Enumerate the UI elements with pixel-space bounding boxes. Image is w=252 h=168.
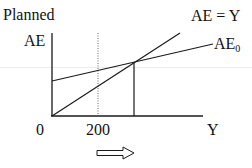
ae-equals-y-line	[52, 33, 180, 116]
x-axis-label-y: Y	[207, 122, 219, 138]
origin-label: 0	[36, 122, 44, 138]
ae0-line	[52, 44, 213, 81]
hollow-right-arrow-icon	[97, 147, 134, 159]
ae-diagram: Planned AE AE = Y AE0 0 200 Y	[0, 0, 252, 168]
x-tick-200: 200	[86, 122, 110, 138]
ae-equals-y-label: AE = Y	[191, 8, 240, 24]
ae0-label-sub: 0	[235, 43, 240, 54]
y-axis-label-planned: Planned	[3, 7, 55, 23]
diagram-graphics	[0, 0, 252, 168]
y-axis-label-ae: AE	[24, 33, 45, 49]
ae0-label-main: AE	[214, 35, 235, 52]
ae0-label: AE0	[214, 36, 240, 54]
